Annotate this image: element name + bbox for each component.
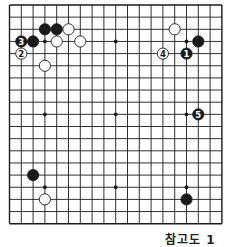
go-board: 32145	[0, 0, 228, 232]
star-point	[43, 40, 47, 44]
move-number: 5	[195, 110, 201, 120]
star-point	[114, 40, 118, 44]
star-point	[43, 112, 47, 116]
white-stone	[75, 36, 86, 47]
black-stone	[27, 36, 38, 47]
star-point	[114, 112, 118, 116]
star-point	[185, 40, 189, 44]
black-stone-5: 5	[193, 109, 204, 120]
star-point	[185, 112, 189, 116]
star-point	[185, 185, 189, 189]
black-stone-1: 1	[181, 48, 192, 59]
star-point	[114, 185, 118, 189]
black-stone	[193, 36, 204, 47]
white-stone	[51, 36, 62, 47]
white-stone	[169, 24, 180, 35]
black-stone	[181, 194, 192, 205]
diagram-caption: 참고도 1	[165, 233, 216, 247]
black-stone	[51, 24, 62, 35]
black-stone-3: 3	[16, 36, 27, 47]
white-stone-2: 2	[16, 48, 27, 59]
white-stone	[39, 194, 50, 205]
white-stone	[39, 60, 50, 71]
move-number: 3	[18, 37, 24, 47]
star-point	[43, 185, 47, 189]
white-stone-4: 4	[157, 48, 168, 59]
move-number: 2	[18, 49, 24, 59]
black-stone	[39, 24, 50, 35]
black-stone	[27, 170, 38, 181]
move-number: 4	[160, 49, 166, 59]
white-stone	[63, 24, 74, 35]
move-number: 1	[184, 49, 190, 59]
